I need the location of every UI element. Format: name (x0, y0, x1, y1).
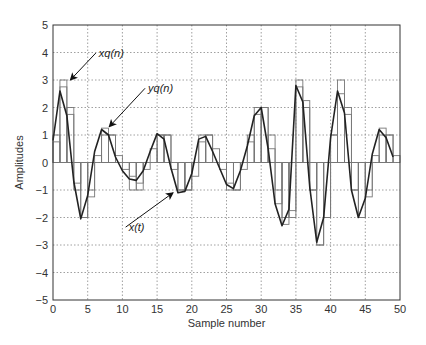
annotation-arrow-icon (126, 193, 173, 227)
x-tick-label: 20 (186, 303, 198, 315)
x-tick-label: 0 (50, 303, 56, 315)
annotation-arrow-icon (70, 53, 95, 80)
annotation-arrow-icon (109, 88, 145, 127)
step-bar-yqn (171, 163, 178, 170)
step-bar-yqn (129, 163, 136, 177)
step-bar-yqn (53, 142, 60, 163)
chart: 05101520253035404550 −5−4−3−2−1012345 Sa… (0, 0, 426, 345)
step-bar-yqn (393, 156, 400, 163)
y-tick-label: −3 (35, 239, 48, 251)
y-tick-label: −2 (35, 212, 48, 224)
x-tick-label: 5 (85, 303, 91, 315)
step-bar-xqn (351, 163, 358, 191)
y-tick-label: −4 (35, 267, 48, 279)
x-tick-label: 40 (324, 303, 336, 315)
x-axis-label: Sample number (188, 317, 266, 329)
step-bar-yqn (372, 156, 379, 163)
step-bar-xqn (164, 135, 171, 163)
annotation-label: x(t) (128, 221, 145, 233)
y-tick-label: 1 (42, 129, 48, 141)
y-tick-label: −5 (35, 294, 48, 306)
step-bar-xqn (178, 163, 185, 191)
step-bar-yqn (122, 163, 129, 170)
step-bar-yqn (275, 163, 282, 204)
step-bar-xqn (331, 135, 338, 163)
step-bar-yqn (282, 163, 289, 225)
step-bar-xqn (275, 163, 282, 191)
signal-line (53, 86, 393, 243)
step-bar-yqn (178, 163, 185, 191)
x-tick-label: 35 (290, 303, 302, 315)
x-tick-label: 45 (359, 303, 371, 315)
y-axis-ticks: −5−4−3−2−1012345 (35, 19, 48, 306)
x-tick-label: 30 (255, 303, 267, 315)
y-tick-label: 2 (42, 102, 48, 114)
x-tick-label: 50 (394, 303, 406, 315)
step-bar-yqn (74, 163, 81, 184)
y-tick-label: 3 (42, 74, 48, 86)
step-bar-yqn (310, 163, 317, 191)
step-bar-xqn (379, 135, 386, 163)
x-tick-label: 25 (220, 303, 232, 315)
step-bar-yqn (254, 114, 261, 162)
y-tick-label: 0 (42, 157, 48, 169)
step-bar-yqn (220, 163, 227, 170)
quantized-step-series (53, 80, 400, 245)
x-tick-label: 15 (151, 303, 163, 315)
y-tick-label: 4 (42, 47, 48, 59)
y-tick-label: −1 (35, 184, 48, 196)
annotations: xq(n)yq(n)x(t) (70, 47, 173, 233)
step-bar-yqn (164, 135, 171, 163)
step-bar-yqn (60, 87, 67, 163)
step-bar-yqn (199, 142, 206, 163)
step-bar-xqn (53, 135, 60, 163)
x-tick-label: 10 (116, 303, 128, 315)
x-axis-ticks: 05101520253035404550 (50, 303, 406, 315)
annotation-label: xq(n) (98, 47, 124, 59)
y-axis-label: Amplitudes (13, 135, 25, 190)
step-bar-yqn (95, 156, 102, 163)
y-tick-label: 5 (42, 19, 48, 31)
step-bar-xqn (102, 135, 109, 163)
step-bar-xqn (310, 163, 317, 191)
signal-line-series (53, 86, 393, 243)
step-bar-yqn (331, 135, 338, 163)
annotation-label: yq(n) (147, 82, 173, 94)
step-bar-yqn (227, 163, 234, 184)
step-bar-yqn (351, 163, 358, 191)
